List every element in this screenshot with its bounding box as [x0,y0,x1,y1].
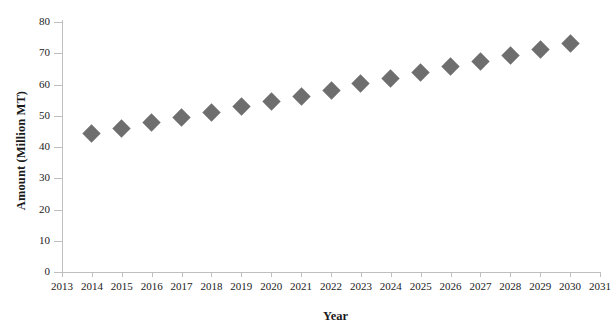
y-tick-label: 50 [10,110,50,121]
x-tick-mark [451,272,452,277]
x-tick-mark [182,272,183,277]
scatter-chart: Amount (Million MT) 01020304050607080 20… [0,0,614,331]
y-tick-mark [54,210,62,211]
data-point-marker [501,46,519,64]
y-tick-mark [54,116,62,117]
data-point-marker [83,124,101,142]
x-tick-mark [271,272,272,277]
data-point-marker [382,69,400,87]
data-point-marker [202,103,220,121]
y-tick-mark [54,22,62,23]
x-tick-mark [361,272,362,277]
x-tick-mark [301,272,302,277]
x-tick-mark [331,272,332,277]
data-point-marker [322,81,340,99]
x-tick-mark [92,272,93,277]
data-point-marker [232,97,250,115]
data-point-marker [471,52,489,70]
y-tick-mark [54,178,62,179]
x-tick-mark [540,272,541,277]
data-point-marker [531,40,549,58]
y-tick-mark [54,147,62,148]
y-tick-label: 30 [10,172,50,183]
data-point-marker [142,113,160,131]
y-tick-label: 80 [10,16,50,27]
y-tick-mark [54,85,62,86]
y-tick-label: 60 [10,79,50,90]
x-tick-mark [211,272,212,277]
data-point-marker [352,75,370,93]
data-point-marker [441,57,459,75]
y-tick-label: 70 [10,47,50,58]
x-tick-label: 2031 [578,280,614,292]
y-tick-label: 10 [10,235,50,246]
x-tick-mark [600,272,601,277]
x-tick-mark [241,272,242,277]
x-tick-mark [570,272,571,277]
y-tick-label: 0 [10,266,50,277]
x-tick-mark [62,272,63,277]
y-tick-mark [54,272,62,273]
y-tick-mark [54,53,62,54]
data-point-marker [292,87,310,105]
x-tick-mark [421,272,422,277]
data-point-marker [561,35,579,53]
x-tick-mark [391,272,392,277]
x-tick-mark [480,272,481,277]
y-tick-mark [54,241,62,242]
data-point-marker [172,108,190,126]
data-point-marker [262,92,280,110]
data-point-marker [113,119,131,137]
x-tick-mark [122,272,123,277]
y-tick-label: 40 [10,141,50,152]
data-point-marker [411,63,429,81]
x-tick-mark [152,272,153,277]
x-tick-mark [510,272,511,277]
x-axis-title: Year [63,309,608,324]
y-tick-label: 20 [10,204,50,215]
plot-area [62,22,600,272]
